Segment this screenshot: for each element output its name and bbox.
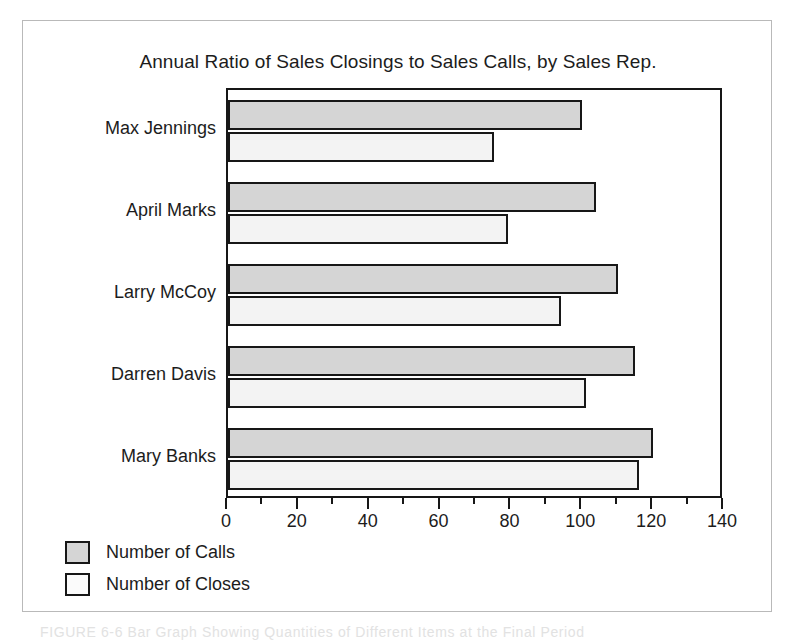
bar-closes [228, 132, 494, 162]
chart-title: Annual Ratio of Sales Closings to Sales … [23, 51, 773, 73]
legend-label: Number of Calls [106, 542, 235, 563]
figure-caption: FIGURE 6-6 Bar Graph Showing Quantities … [40, 624, 780, 640]
figure-frame: Annual Ratio of Sales Closings to Sales … [22, 20, 772, 612]
x-tick-major [579, 498, 581, 509]
category-label: Mary Banks [26, 446, 216, 467]
legend-label: Number of Closes [106, 574, 250, 595]
plot-area [226, 88, 722, 498]
x-tick-major [296, 498, 298, 509]
x-tick-major [225, 498, 227, 509]
legend-swatch-icon [65, 573, 90, 596]
bar-calls [228, 428, 653, 458]
legend-item: Number of Closes [65, 573, 250, 596]
chart-legend: Number of CallsNumber of Closes [65, 541, 250, 605]
category-label: Darren Davis [26, 364, 216, 385]
legend-swatch-icon [65, 541, 90, 564]
x-tick-minor [260, 498, 262, 504]
category-label: Larry McCoy [26, 282, 216, 303]
bar-closes [228, 214, 508, 244]
x-tick-label: 80 [499, 511, 519, 532]
x-tick-label: 0 [221, 511, 231, 532]
x-tick-major [721, 498, 723, 509]
x-tick-minor [331, 498, 333, 504]
bar-calls [228, 100, 582, 130]
x-tick-major [508, 498, 510, 509]
legend-item: Number of Calls [65, 541, 250, 564]
x-tick-major [650, 498, 652, 509]
x-tick-label: 120 [636, 511, 666, 532]
bar-calls [228, 264, 618, 294]
x-tick-minor [615, 498, 617, 504]
x-tick-label: 40 [358, 511, 378, 532]
x-tick-label: 60 [429, 511, 449, 532]
bar-calls [228, 182, 596, 212]
category-label: April Marks [26, 200, 216, 221]
x-tick-label: 140 [707, 511, 737, 532]
x-axis: 020406080100120140 [226, 498, 722, 544]
category-axis-labels: Max JenningsApril MarksLarry McCoyDarren… [23, 88, 216, 498]
bar-closes [228, 460, 639, 490]
category-label: Max Jennings [26, 118, 216, 139]
bar-closes [228, 296, 561, 326]
x-tick-minor [686, 498, 688, 504]
x-tick-label: 100 [565, 511, 595, 532]
x-tick-minor [402, 498, 404, 504]
x-tick-major [367, 498, 369, 509]
bar-calls [228, 346, 635, 376]
x-tick-minor [544, 498, 546, 504]
x-tick-major [438, 498, 440, 509]
bar-closes [228, 378, 586, 408]
x-tick-label: 20 [287, 511, 307, 532]
x-tick-minor [473, 498, 475, 504]
